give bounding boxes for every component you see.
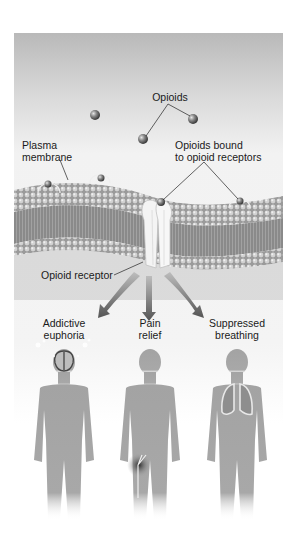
bound-receptor-mid — [90, 175, 110, 184]
pain-site — [127, 453, 151, 477]
label-opioids-bound: Opioids bound to opioid receptors — [175, 139, 261, 163]
leader-bound — [163, 162, 238, 200]
label-opioids: Opioids — [140, 91, 200, 103]
opioid-molecule — [90, 110, 100, 120]
brain-icon — [55, 351, 74, 371]
label-effect-pain-relief: Pain relief — [120, 317, 180, 341]
body-figure-breathing — [207, 349, 267, 520]
label-effect-breathing: Suppressed breathing — [197, 317, 277, 341]
label-effect-euphoria: Addictive euphoria — [29, 317, 99, 341]
opioid-receptor-channel — [142, 198, 172, 268]
body-figure-euphoria — [34, 349, 94, 520]
leader-membrane — [60, 160, 68, 180]
label-opioid-receptor: Opioid receptor — [41, 269, 113, 281]
leader-opioids — [146, 104, 190, 136]
body-figure-pain-relief — [120, 349, 180, 520]
label-plasma-membrane: Plasma membrane — [22, 139, 72, 163]
